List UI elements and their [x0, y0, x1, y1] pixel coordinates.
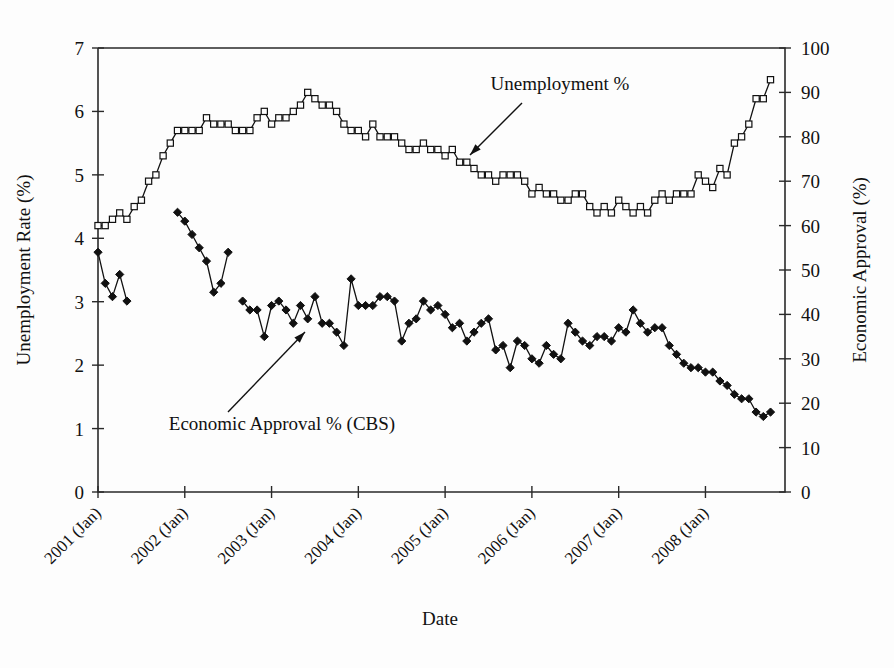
- marker-open-square: [529, 191, 535, 197]
- marker-open-square: [348, 127, 354, 133]
- marker-open-square: [269, 121, 275, 127]
- unemployment-approval-chart: 01234567 0102030405060708090100 2001 (Ja…: [0, 0, 894, 668]
- marker-open-square: [630, 210, 636, 216]
- y-axis-right-tick-label: 20: [801, 393, 820, 414]
- marker-open-square: [485, 172, 491, 178]
- marker-open-square: [225, 121, 231, 127]
- marker-open-square: [572, 191, 578, 197]
- marker-open-square: [254, 115, 260, 121]
- x-axis-title: Date: [422, 608, 458, 629]
- marker-open-square: [500, 172, 506, 178]
- marker-open-square: [305, 89, 311, 95]
- marker-open-square: [724, 172, 730, 178]
- marker-open-square: [616, 197, 622, 203]
- marker-open-square: [543, 191, 549, 197]
- marker-open-square: [551, 191, 557, 197]
- marker-open-square: [384, 134, 390, 140]
- y-axis-left-tick-label: 5: [75, 165, 85, 186]
- marker-open-square: [174, 127, 180, 133]
- marker-open-square: [507, 172, 513, 178]
- marker-open-square: [514, 172, 520, 178]
- marker-open-square: [731, 140, 737, 146]
- marker-open-square: [334, 108, 340, 114]
- y-axis-right-tick-label: 10: [801, 438, 820, 459]
- y-axis-right-tick-label: 60: [801, 216, 820, 237]
- marker-open-square: [536, 184, 542, 190]
- y-axis-right-tick-label: 70: [801, 171, 820, 192]
- marker-open-square: [117, 210, 123, 216]
- marker-open-square: [435, 146, 441, 152]
- y-axis-left-tick-label: 0: [75, 482, 85, 503]
- marker-open-square: [232, 127, 238, 133]
- y-axis-right-tick-label: 30: [801, 349, 820, 370]
- marker-open-square: [623, 204, 629, 210]
- marker-open-square: [522, 178, 528, 184]
- marker-open-square: [767, 77, 773, 83]
- y-axis-right-tick-label: 90: [801, 82, 820, 103]
- marker-open-square: [753, 96, 759, 102]
- annotation-label: Economic Approval % (CBS): [169, 413, 395, 435]
- marker-open-square: [442, 153, 448, 159]
- marker-open-square: [652, 197, 658, 203]
- y-axis-left-tick-label: 6: [75, 101, 85, 122]
- marker-open-square: [319, 102, 325, 108]
- marker-open-square: [218, 121, 224, 127]
- y-axis-right-tick-label: 100: [801, 38, 830, 59]
- marker-open-square: [102, 223, 108, 229]
- marker-open-square: [124, 216, 130, 222]
- y-axis-right-tick-label: 50: [801, 260, 820, 281]
- marker-open-square: [493, 178, 499, 184]
- marker-open-square: [160, 153, 166, 159]
- marker-open-square: [457, 159, 463, 165]
- marker-open-square: [109, 216, 115, 222]
- marker-open-square: [760, 96, 766, 102]
- marker-open-square: [182, 127, 188, 133]
- marker-open-square: [341, 121, 347, 127]
- marker-open-square: [146, 178, 152, 184]
- marker-open-square: [695, 172, 701, 178]
- marker-open-square: [471, 165, 477, 171]
- marker-open-square: [608, 210, 614, 216]
- marker-open-square: [637, 204, 643, 210]
- marker-open-square: [240, 127, 246, 133]
- marker-open-square: [153, 172, 159, 178]
- y-axis-right-tick-label: 40: [801, 304, 820, 325]
- marker-open-square: [167, 140, 173, 146]
- y-axis-right-tick-label: 0: [801, 482, 811, 503]
- y-axis-left-tick-label: 1: [75, 419, 85, 440]
- marker-open-square: [464, 159, 470, 165]
- marker-open-square: [428, 146, 434, 152]
- marker-open-square: [391, 134, 397, 140]
- marker-open-square: [645, 210, 651, 216]
- marker-open-square: [326, 102, 332, 108]
- y-axis-right-tick-label: 80: [801, 127, 820, 148]
- marker-open-square: [276, 115, 282, 121]
- annotation-label: Unemployment %: [491, 73, 630, 94]
- marker-open-square: [565, 197, 571, 203]
- marker-open-square: [717, 165, 723, 171]
- marker-open-square: [413, 146, 419, 152]
- marker-open-square: [355, 127, 361, 133]
- marker-open-square: [377, 134, 383, 140]
- marker-open-square: [189, 127, 195, 133]
- marker-open-square: [746, 121, 752, 127]
- marker-open-square: [247, 127, 253, 133]
- y-axis-left-tick-label: 4: [75, 228, 85, 249]
- marker-open-square: [297, 102, 303, 108]
- marker-open-square: [95, 223, 101, 229]
- marker-open-square: [420, 140, 426, 146]
- marker-open-square: [283, 115, 289, 121]
- marker-open-square: [312, 96, 318, 102]
- marker-open-square: [406, 146, 412, 152]
- marker-open-square: [363, 134, 369, 140]
- y-axis-left-tick-label: 2: [75, 355, 85, 376]
- y-axis-left-tick-label: 7: [75, 38, 85, 59]
- y-axis-left-title: Unemployment Rate (%): [13, 174, 35, 365]
- y-axis-left-tick-label: 3: [75, 292, 85, 313]
- marker-open-square: [601, 204, 607, 210]
- marker-open-square: [211, 121, 217, 127]
- marker-open-square: [710, 184, 716, 190]
- marker-open-square: [478, 172, 484, 178]
- marker-open-square: [138, 197, 144, 203]
- marker-open-square: [449, 146, 455, 152]
